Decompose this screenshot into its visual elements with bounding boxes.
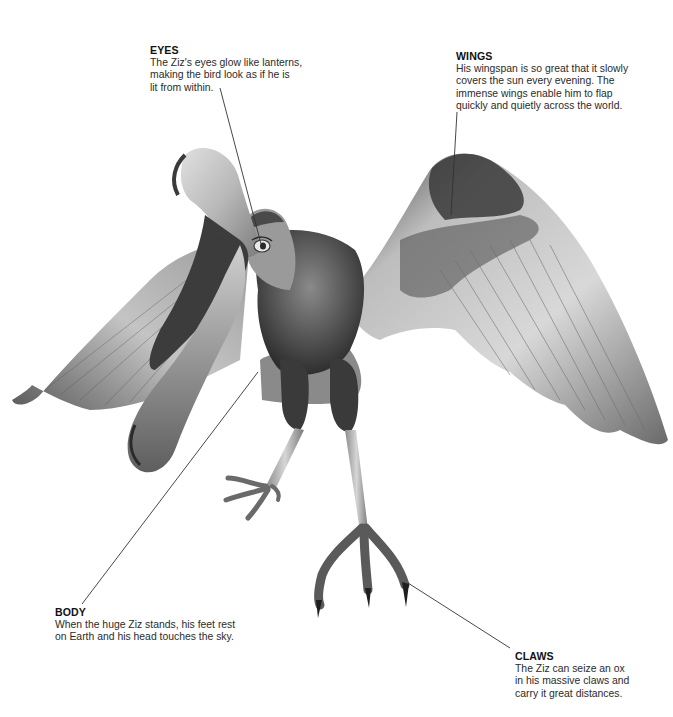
left-thigh <box>280 358 309 430</box>
callout-eyes-line: The Ziz's eyes glow like lanterns, <box>150 57 340 70</box>
bird-body <box>245 209 364 375</box>
callout-body-line: on Earth and his head touches the sky. <box>55 631 265 644</box>
callout-claws-line: carry it great distances. <box>515 688 655 701</box>
callout-wings-line: immense wings enable him to flap <box>456 88 671 101</box>
callout-wings-line: His wingspan is so great that it slowly <box>456 63 671 76</box>
callout-wings-line: quickly and quietly across the world. <box>456 100 671 113</box>
callout-eyes-line: lit from within. <box>150 82 340 95</box>
leader-line-claws <box>408 583 510 648</box>
callout-eyes: EYES The Ziz's eyes glow like lanterns, … <box>150 44 340 94</box>
callout-claws-title: CLAWS <box>515 650 655 663</box>
nostril-icon <box>216 237 222 241</box>
callout-wings: WINGS His wingspan is so great that it s… <box>456 50 671 113</box>
callout-body-line: When the huge Ziz stands, his feet rest <box>55 619 265 632</box>
diagram-stage: EYES The Ziz's eyes glow like lanterns, … <box>0 0 673 717</box>
callout-claws-line: in his massive claws and <box>515 675 655 688</box>
left-leg <box>226 428 304 518</box>
callout-claws: CLAWS The Ziz can seize an ox in his mas… <box>515 650 655 700</box>
callout-body-title: BODY <box>55 606 265 619</box>
right-wing <box>345 153 668 444</box>
callout-eyes-title: EYES <box>150 44 340 57</box>
callout-wings-title: WINGS <box>456 50 671 63</box>
claw-icon <box>316 582 409 618</box>
callout-body: BODY When the huge Ziz stands, his feet … <box>55 606 265 644</box>
callout-eyes-line: making the bird look as if he is <box>150 69 340 82</box>
right-leg <box>319 430 405 605</box>
callout-wings-line: covers the sun every evening. The <box>456 75 671 88</box>
callout-claws-line: The Ziz can seize an ox <box>515 663 655 676</box>
